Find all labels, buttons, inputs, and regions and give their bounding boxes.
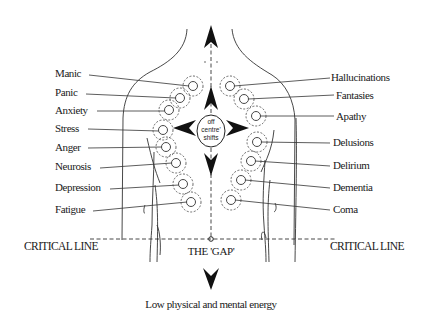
state-label-fatigue: Fatigue bbox=[55, 203, 86, 215]
state-label-delirium: Delirium bbox=[333, 159, 370, 171]
state-node bbox=[189, 82, 198, 91]
right-arm-line-1 bbox=[263, 160, 266, 262]
state-label-neurosis: Neurosis bbox=[55, 160, 91, 172]
right-arm-line-2 bbox=[268, 180, 270, 262]
dot bbox=[216, 61, 217, 62]
state-label-depression: Depression bbox=[55, 181, 101, 193]
gap-label: THE 'GAP' bbox=[188, 245, 235, 257]
critical-line-label-left: CRITICAL LINE bbox=[24, 240, 98, 252]
state-label-dementia: Dementia bbox=[333, 181, 373, 193]
state-label-fantasies: Fantasies bbox=[336, 89, 373, 101]
right-arm-inner-upper bbox=[261, 130, 274, 172]
state-label-manic: Manic bbox=[55, 67, 82, 79]
left-arm-line-2 bbox=[155, 185, 158, 262]
right-arrow-icon bbox=[226, 120, 249, 136]
state-label-hallucinations: Hallucinations bbox=[331, 71, 390, 83]
state-label-panic: Panic bbox=[55, 86, 78, 98]
off-centre-shifts-diagram: off centre' shifts Manic Panic Anxiety S… bbox=[0, 0, 423, 317]
center-label-line-3: shifts bbox=[203, 134, 219, 141]
state-label-delusions: Delusions bbox=[333, 136, 374, 148]
bottom-label: Low physical and mental energy bbox=[145, 298, 277, 310]
left-arrow-icon bbox=[173, 120, 196, 136]
state-label-stress: Stress bbox=[55, 122, 79, 134]
center-label-line-2: centre' bbox=[201, 126, 220, 133]
right-states: Hallucinations Fantasies Apathy Delusion… bbox=[220, 71, 390, 215]
state-label-anxiety: Anxiety bbox=[55, 104, 89, 116]
state-label-anger: Anger bbox=[55, 141, 81, 153]
bottom-down-arrow-icon bbox=[203, 268, 219, 290]
left-states: Manic Panic Anxiety Stress Anger Neurosi… bbox=[55, 67, 203, 215]
left-arm-line-1 bbox=[150, 152, 154, 262]
state-label-coma: Coma bbox=[333, 203, 358, 215]
center-label-line-1: off bbox=[207, 118, 214, 125]
dot bbox=[204, 61, 205, 62]
critical-line-label-right: CRITICAL LINE bbox=[330, 240, 404, 252]
state-label-apathy: Apathy bbox=[336, 110, 367, 122]
